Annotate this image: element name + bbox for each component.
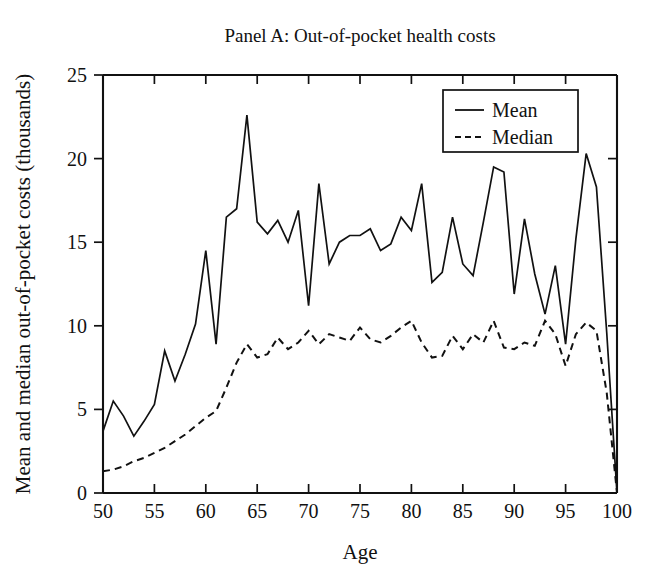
x-tick-label: 95 [556,500,576,522]
x-tick-label: 80 [401,500,421,522]
x-axis-title: Age [343,540,378,564]
chart-legend: Mean Median [443,90,578,152]
y-tick-label: 15 [67,231,87,253]
chart-figure: Panel A: Out-of-pocket health costs 5055… [0,0,667,581]
y-tick-label: 10 [67,315,87,337]
y-tick-label: 20 [67,148,87,170]
chart-title: Panel A: Out-of-pocket health costs [224,25,495,46]
x-tick-label: 50 [93,500,113,522]
chart-canvas: Panel A: Out-of-pocket health costs 5055… [0,0,667,581]
x-axis-tick-labels: 50556065707580859095100 [93,500,632,522]
y-axis-tick-labels: 0510152025 [67,64,87,504]
x-tick-label: 90 [504,500,524,522]
series-line-mean [103,115,617,493]
x-tick-label: 100 [602,500,632,522]
x-tick-label: 55 [144,500,164,522]
series-line-median [103,321,617,493]
legend-label-median: Median [492,126,553,148]
legend-label-mean: Mean [492,99,538,121]
x-tick-label: 65 [247,500,267,522]
x-tick-label: 70 [299,500,319,522]
y-axis-title: Mean and median out-of-pocket costs (tho… [11,74,35,494]
y-tick-label: 0 [77,482,87,504]
x-tick-label: 75 [350,500,370,522]
y-tick-label: 5 [77,398,87,420]
x-tick-label: 60 [196,500,216,522]
y-tick-label: 25 [67,64,87,86]
x-tick-label: 85 [453,500,473,522]
